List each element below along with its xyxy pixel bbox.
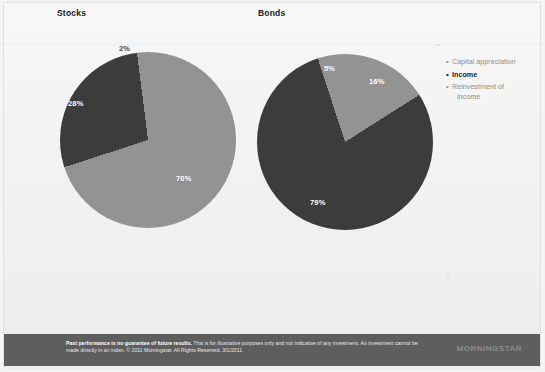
legend-label-capital-appreciation: Capital appreciation bbox=[452, 57, 541, 67]
chart-title-bonds: Bonds bbox=[258, 8, 285, 18]
legend-label-line2: income bbox=[452, 92, 541, 102]
pie-slice-label-stocks-income: 28% bbox=[68, 99, 84, 108]
legend-label-line1: Reinvestment of bbox=[452, 82, 504, 91]
scan-artifact bbox=[0, 332, 545, 333]
pie-chart-bonds[interactable] bbox=[257, 54, 433, 230]
scan-speck bbox=[437, 44, 439, 46]
chart-page: Stocks Bonds 2% 28% 70% 5% 16% 79% • Cap… bbox=[0, 0, 545, 372]
legend-item-reinvestment-of-income[interactable]: • Reinvestment of income bbox=[446, 82, 541, 101]
chart-legend: • Capital appreciation • Income • Reinve… bbox=[446, 57, 541, 104]
pie-slice-label-bonds-income: 79% bbox=[310, 198, 326, 207]
pie-slice-label-bonds-capital: 16% bbox=[369, 77, 385, 86]
morningstar-logo: MORNINGSTAR bbox=[457, 344, 522, 353]
legend-label-reinvestment-of-income: Reinvestment of income bbox=[452, 82, 541, 101]
scan-speck bbox=[447, 276, 449, 278]
page-bottom-edge bbox=[4, 366, 540, 370]
scan-artifact bbox=[0, 44, 545, 45]
footer-disclaimer-text: Past performance is no guarantee of futu… bbox=[66, 340, 426, 354]
pie-slice-label-bonds-reinvestment: 5% bbox=[324, 64, 335, 73]
pie-chart-stocks[interactable] bbox=[60, 52, 236, 228]
legend-label-income: Income bbox=[452, 70, 541, 80]
footer-disclaimer-lead: Past performance is no guarantee of futu… bbox=[66, 340, 192, 346]
pie-slice-label-stocks-capital: 70% bbox=[176, 174, 192, 183]
legend-item-income[interactable]: • Income bbox=[446, 70, 541, 80]
pie-slice-label-stocks-reinvestment: 2% bbox=[119, 44, 130, 53]
legend-item-capital-appreciation[interactable]: • Capital appreciation bbox=[446, 57, 541, 67]
footer-disclaimer-bar: Past performance is no guarantee of futu… bbox=[4, 334, 540, 366]
chart-title-stocks: Stocks bbox=[57, 8, 86, 18]
